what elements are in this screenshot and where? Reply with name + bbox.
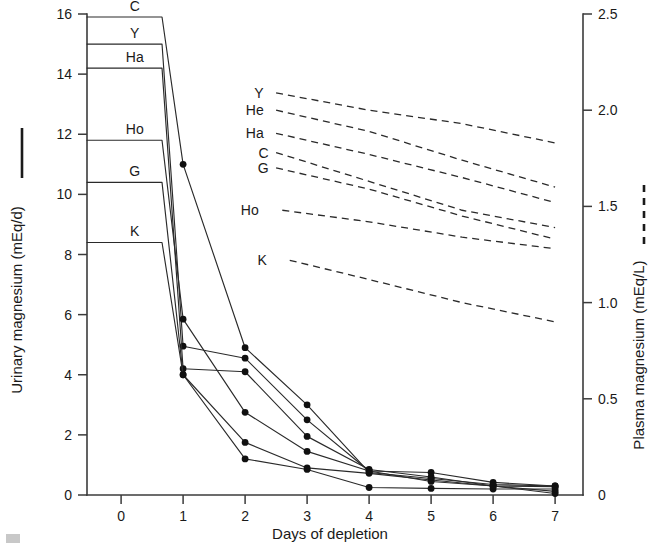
urinary-data-point — [366, 484, 373, 491]
right-axis-tick-label: 1.5 — [598, 198, 618, 214]
urinary-series-y: Y — [87, 25, 558, 490]
plasma-series-ha: Ha — [246, 125, 555, 202]
urinary-series-g: G — [87, 163, 558, 497]
figure-container: 0246810121416 00.51.01.52.02.5 01234567 … — [0, 0, 659, 548]
plasma-series-label-g: G — [258, 160, 269, 176]
urinary-data-point — [180, 161, 187, 168]
urinary-series-label-c: C — [130, 0, 140, 14]
urinary-series-c: C — [87, 0, 558, 489]
urinary-series-k: K — [87, 223, 558, 492]
right-axis: 00.51.01.52.02.5 — [583, 6, 618, 503]
right-axis-tick-label: 2.0 — [598, 102, 618, 118]
x-axis: 01234567 — [87, 495, 583, 524]
urinary-data-point — [180, 371, 187, 378]
urinary-data-point — [428, 485, 435, 492]
urinary-series-label-k: K — [130, 223, 140, 239]
x-axis-tick-label: 3 — [303, 508, 311, 524]
right-axis-tick-label: 0 — [598, 487, 606, 503]
plasma-series-g: G — [258, 160, 555, 239]
urinary-series-path — [87, 68, 555, 491]
urinary-data-point — [304, 401, 311, 408]
magnesium-depletion-chart: 0246810121416 00.51.01.52.02.5 01234567 … — [0, 0, 659, 548]
left-axis-tick-label: 16 — [56, 6, 72, 22]
urinary-data-point — [428, 477, 435, 484]
urinary-data-point — [304, 466, 311, 473]
plasma-series-path — [276, 133, 555, 202]
right-axis-tick-label: 1.0 — [598, 295, 618, 311]
urinary-data-point — [490, 486, 497, 493]
urinary-series-label-y: Y — [130, 25, 140, 41]
urinary-data-point — [552, 486, 559, 493]
urinary-data-point — [304, 433, 311, 440]
plasma-series-c: C — [259, 145, 556, 228]
urinary-data-point — [242, 409, 249, 416]
urinary-series-path — [87, 182, 555, 493]
plasma-series-y: Y — [254, 85, 555, 143]
left-axis-tick-label: 2 — [64, 427, 72, 443]
x-axis-tick-label: 0 — [117, 508, 125, 524]
x-axis-tick-label: 2 — [241, 508, 249, 524]
plasma-series-label-ha: Ha — [246, 125, 264, 141]
x-axis-tick-label: 1 — [179, 508, 187, 524]
plasma-series-label-c: C — [259, 145, 269, 161]
left-axis-tick-label: 0 — [64, 487, 72, 503]
urinary-series-path — [87, 17, 555, 486]
plasma-series-ho: Ho — [241, 202, 555, 248]
urinary-data-point — [242, 456, 249, 463]
x-axis-tick-label: 4 — [365, 508, 373, 524]
plasma-series-label-he: He — [246, 102, 264, 118]
plasma-series-label-k: K — [257, 252, 267, 268]
x-axis-title: Days of depletion — [272, 525, 388, 542]
left-axis-tick-label: 14 — [56, 66, 72, 82]
left-axis-tick-label: 8 — [64, 247, 72, 263]
x-axis-tick-label: 7 — [551, 508, 559, 524]
urinary-magnesium-series-group: CYHaHoGK — [87, 0, 558, 497]
urinary-data-point — [304, 416, 311, 423]
urinary-series-path — [87, 140, 555, 486]
right-axis-title: Plasma magnesium (mEq/L) — [630, 260, 647, 449]
plasma-series-label-y: Y — [254, 85, 264, 101]
right-axis-tick-label: 2.5 — [598, 6, 618, 22]
urinary-series-label-g: G — [129, 163, 140, 179]
plasma-series-path — [276, 93, 555, 143]
plasma-series-path — [276, 153, 555, 228]
left-axis: 0246810121416 — [56, 6, 87, 503]
axis-titles-group: Days of depletionUrinary magnesium (mEq/… — [8, 128, 647, 542]
plasma-series-k: K — [257, 252, 555, 322]
urinary-data-point — [242, 355, 249, 362]
urinary-data-point — [366, 470, 373, 477]
left-axis-tick-label: 10 — [56, 186, 72, 202]
urinary-data-point — [304, 448, 311, 455]
left-axis-tick-label: 4 — [64, 367, 72, 383]
plasma-series-path — [276, 168, 555, 239]
left-axis-title: Urinary magnesium (mEq/d) — [8, 206, 25, 394]
plasma-magnesium-series-group: YHeHaCGHoK — [241, 85, 555, 322]
plasma-series-path — [290, 260, 555, 322]
urinary-data-point — [242, 344, 249, 351]
urinary-series-label-ho: Ho — [126, 121, 144, 137]
urinary-series-label-ha: Ha — [126, 49, 144, 65]
urinary-data-point — [242, 439, 249, 446]
page-corner-mark — [6, 534, 20, 543]
urinary-series-ho: Ho — [87, 121, 558, 489]
left-axis-tick-label: 6 — [64, 307, 72, 323]
plasma-series-label-ho: Ho — [241, 202, 259, 218]
urinary-data-point — [242, 368, 249, 375]
urinary-data-point — [180, 316, 187, 323]
urinary-series-ha: Ha — [87, 49, 558, 495]
urinary-data-point — [428, 469, 435, 476]
plasma-series-path — [276, 110, 555, 187]
x-axis-tick-label: 5 — [427, 508, 435, 524]
right-axis-tick-label: 0.5 — [598, 391, 618, 407]
urinary-series-path — [87, 242, 555, 489]
left-axis-tick-label: 12 — [56, 126, 72, 142]
x-axis-tick-label: 6 — [489, 508, 497, 524]
